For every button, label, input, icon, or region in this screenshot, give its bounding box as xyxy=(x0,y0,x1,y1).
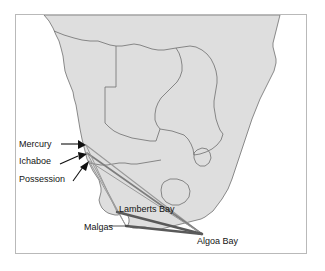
map-figure: Mercury Ichaboe Possession Lamberts Bay … xyxy=(0,0,325,271)
map-label-lamberts-bay: Lamberts Bay xyxy=(119,204,175,214)
map-label-possession: Possession xyxy=(19,174,65,184)
ichaboe-arrow-shaft xyxy=(60,156,78,164)
map-canvas xyxy=(16,15,307,254)
map-label-ichaboe: Ichaboe xyxy=(19,156,51,166)
map-label-algoa-bay: Algoa Bay xyxy=(197,236,238,246)
map-label-mercury: Mercury xyxy=(19,139,52,149)
possession-arrow-shaft xyxy=(73,167,83,181)
map-frame: Mercury Ichaboe Possession Lamberts Bay … xyxy=(15,14,307,254)
map-label-malgas: Malgas xyxy=(84,222,113,232)
